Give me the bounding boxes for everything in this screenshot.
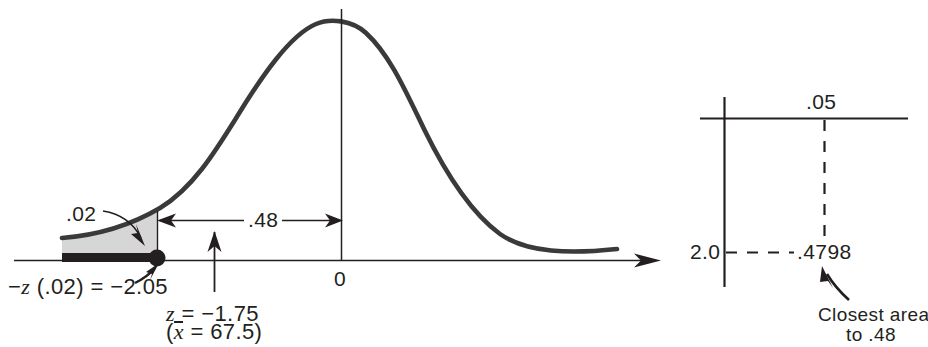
table-column-header: .05 <box>806 91 836 112</box>
x-bar-overline <box>174 321 183 323</box>
critical-value-dot <box>149 250 166 267</box>
critical-z-expression: (.02) = −2.05 <box>30 274 168 299</box>
sample-mean-label: (x = 67.5) <box>166 321 262 343</box>
span-label: .48 <box>244 209 282 230</box>
table-callout-line-1: Closest area <box>818 305 928 324</box>
sample-mean-expression: = 67.5) <box>184 319 262 344</box>
table-cell-value: .4798 <box>797 241 852 262</box>
table-callout-arrow <box>827 274 849 300</box>
x-bar-symbol: x <box>174 321 184 343</box>
table-callout-arrowhead <box>820 266 833 288</box>
critical-z-minus: − <box>8 274 21 299</box>
sample-mean-open-paren: ( <box>166 319 174 344</box>
table-callout-line-2: to .48 <box>846 325 896 344</box>
tail-area-label: .02 <box>66 203 96 224</box>
critical-z-label: −z (.02) = −2.05 <box>8 276 168 298</box>
normal-distribution-figure: .02 .48 0 −z (.02) = −2.05 z = −1.75 (x … <box>0 0 928 347</box>
rejection-region-bar <box>62 253 159 262</box>
table-row-header: 2.0 <box>690 241 720 262</box>
critical-z-variable: z <box>21 274 30 299</box>
origin-label: 0 <box>334 268 346 289</box>
normal-curve <box>62 21 617 252</box>
